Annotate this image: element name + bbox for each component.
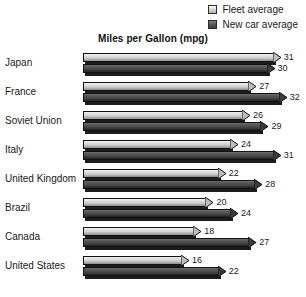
bar-body (83, 227, 194, 236)
bar-newcar-france (83, 93, 287, 102)
category-label-japan: Japan (5, 57, 32, 69)
bar-body (83, 111, 243, 120)
bar-fleet-france (83, 82, 256, 91)
bar-newcar-united-states (83, 267, 226, 276)
value-label-newcar-united-kingdom: 28 (265, 179, 275, 190)
bar-newcar-soviet-union (83, 122, 268, 131)
value-label-fleet-united-kingdom: 22 (229, 168, 239, 179)
value-label-fleet-brazil: 20 (216, 197, 226, 208)
category-label-italy: Italy (5, 144, 23, 156)
bar-fleet-italy (83, 140, 238, 149)
value-label-newcar-canada: 27 (259, 237, 269, 248)
category-label-france: France (5, 86, 36, 98)
chart-row: Brazil2024 (0, 195, 306, 224)
bar-body (83, 180, 255, 189)
bar-body (83, 93, 280, 102)
bar-newcar-united-kingdom (83, 180, 262, 189)
legend-item-fleet-average: Fleet average (208, 3, 283, 15)
category-label-brazil: Brazil (5, 202, 30, 214)
value-label-fleet-united-states: 16 (192, 255, 202, 266)
bar-shadow (85, 160, 276, 163)
chart-legend: Fleet average New car average (208, 3, 298, 30)
bar-shadow (85, 189, 257, 192)
value-label-newcar-brazil: 24 (241, 208, 251, 219)
bar-fleet-canada (83, 227, 201, 236)
value-label-newcar-japan: 30 (278, 63, 288, 74)
legend-label-fleet-average: Fleet average (222, 4, 283, 15)
value-label-newcar-italy: 31 (284, 150, 294, 161)
value-label-fleet-canada: 18 (204, 226, 214, 237)
bar-newcar-japan (83, 64, 275, 73)
bar-shadow (85, 73, 270, 76)
bar-body (83, 53, 274, 62)
value-label-newcar-france: 32 (290, 92, 300, 103)
bar-body (83, 169, 219, 178)
chart-row: United States1622 (0, 253, 306, 282)
bar-shadow (85, 276, 221, 279)
bar-shadow (85, 131, 263, 134)
bar-fleet-united-states (83, 256, 189, 265)
chart-row: Italy2431 (0, 137, 306, 166)
bar-shadow (85, 102, 282, 105)
bar-newcar-canada (83, 238, 256, 247)
mpg-bar-chart: Fleet average New car average Miles per … (0, 0, 306, 297)
chart-title: Miles per Gallon (mpg) (0, 33, 306, 44)
bar-body (83, 267, 219, 276)
legend-label-new-car-average: New car average (222, 19, 298, 30)
bar-fleet-brazil (83, 198, 213, 207)
value-label-fleet-italy: 24 (241, 139, 251, 150)
category-label-united-kingdom: United Kingdom (5, 173, 76, 185)
bar-body (83, 82, 249, 91)
fleet-swatch-icon (208, 5, 217, 14)
bar-body (83, 198, 206, 207)
category-label-canada: Canada (5, 231, 40, 243)
legend-item-new-car-average: New car average (208, 18, 298, 30)
bar-body (83, 209, 231, 218)
value-label-newcar-united-states: 22 (229, 266, 239, 277)
bar-fleet-united-kingdom (83, 169, 226, 178)
bar-body (83, 151, 274, 160)
chart-row: Japan3130 (0, 50, 306, 79)
bar-body (83, 140, 231, 149)
chart-row: Soviet Union2629 (0, 108, 306, 137)
bar-body (83, 122, 261, 131)
bar-shadow (85, 247, 251, 250)
category-label-united-states: United States (5, 260, 65, 272)
value-label-newcar-soviet-union: 29 (271, 121, 281, 132)
bar-fleet-japan (83, 53, 281, 62)
plot-area: Japan3130France2732Soviet Union2629Italy… (0, 50, 306, 297)
bar-fleet-soviet-union (83, 111, 250, 120)
value-label-fleet-soviet-union: 26 (253, 110, 263, 121)
value-label-fleet-france: 27 (259, 81, 269, 92)
category-label-soviet-union: Soviet Union (5, 115, 62, 127)
bar-shadow (85, 218, 233, 221)
chart-row: France2732 (0, 79, 306, 108)
value-label-fleet-japan: 31 (284, 52, 294, 63)
bar-newcar-italy (83, 151, 281, 160)
bar-newcar-brazil (83, 209, 238, 218)
bar-body (83, 64, 268, 73)
chart-row: Canada1827 (0, 224, 306, 253)
newcar-swatch-icon (208, 20, 217, 29)
chart-row: United Kingdom2228 (0, 166, 306, 195)
bar-body (83, 238, 249, 247)
bar-body (83, 256, 182, 265)
